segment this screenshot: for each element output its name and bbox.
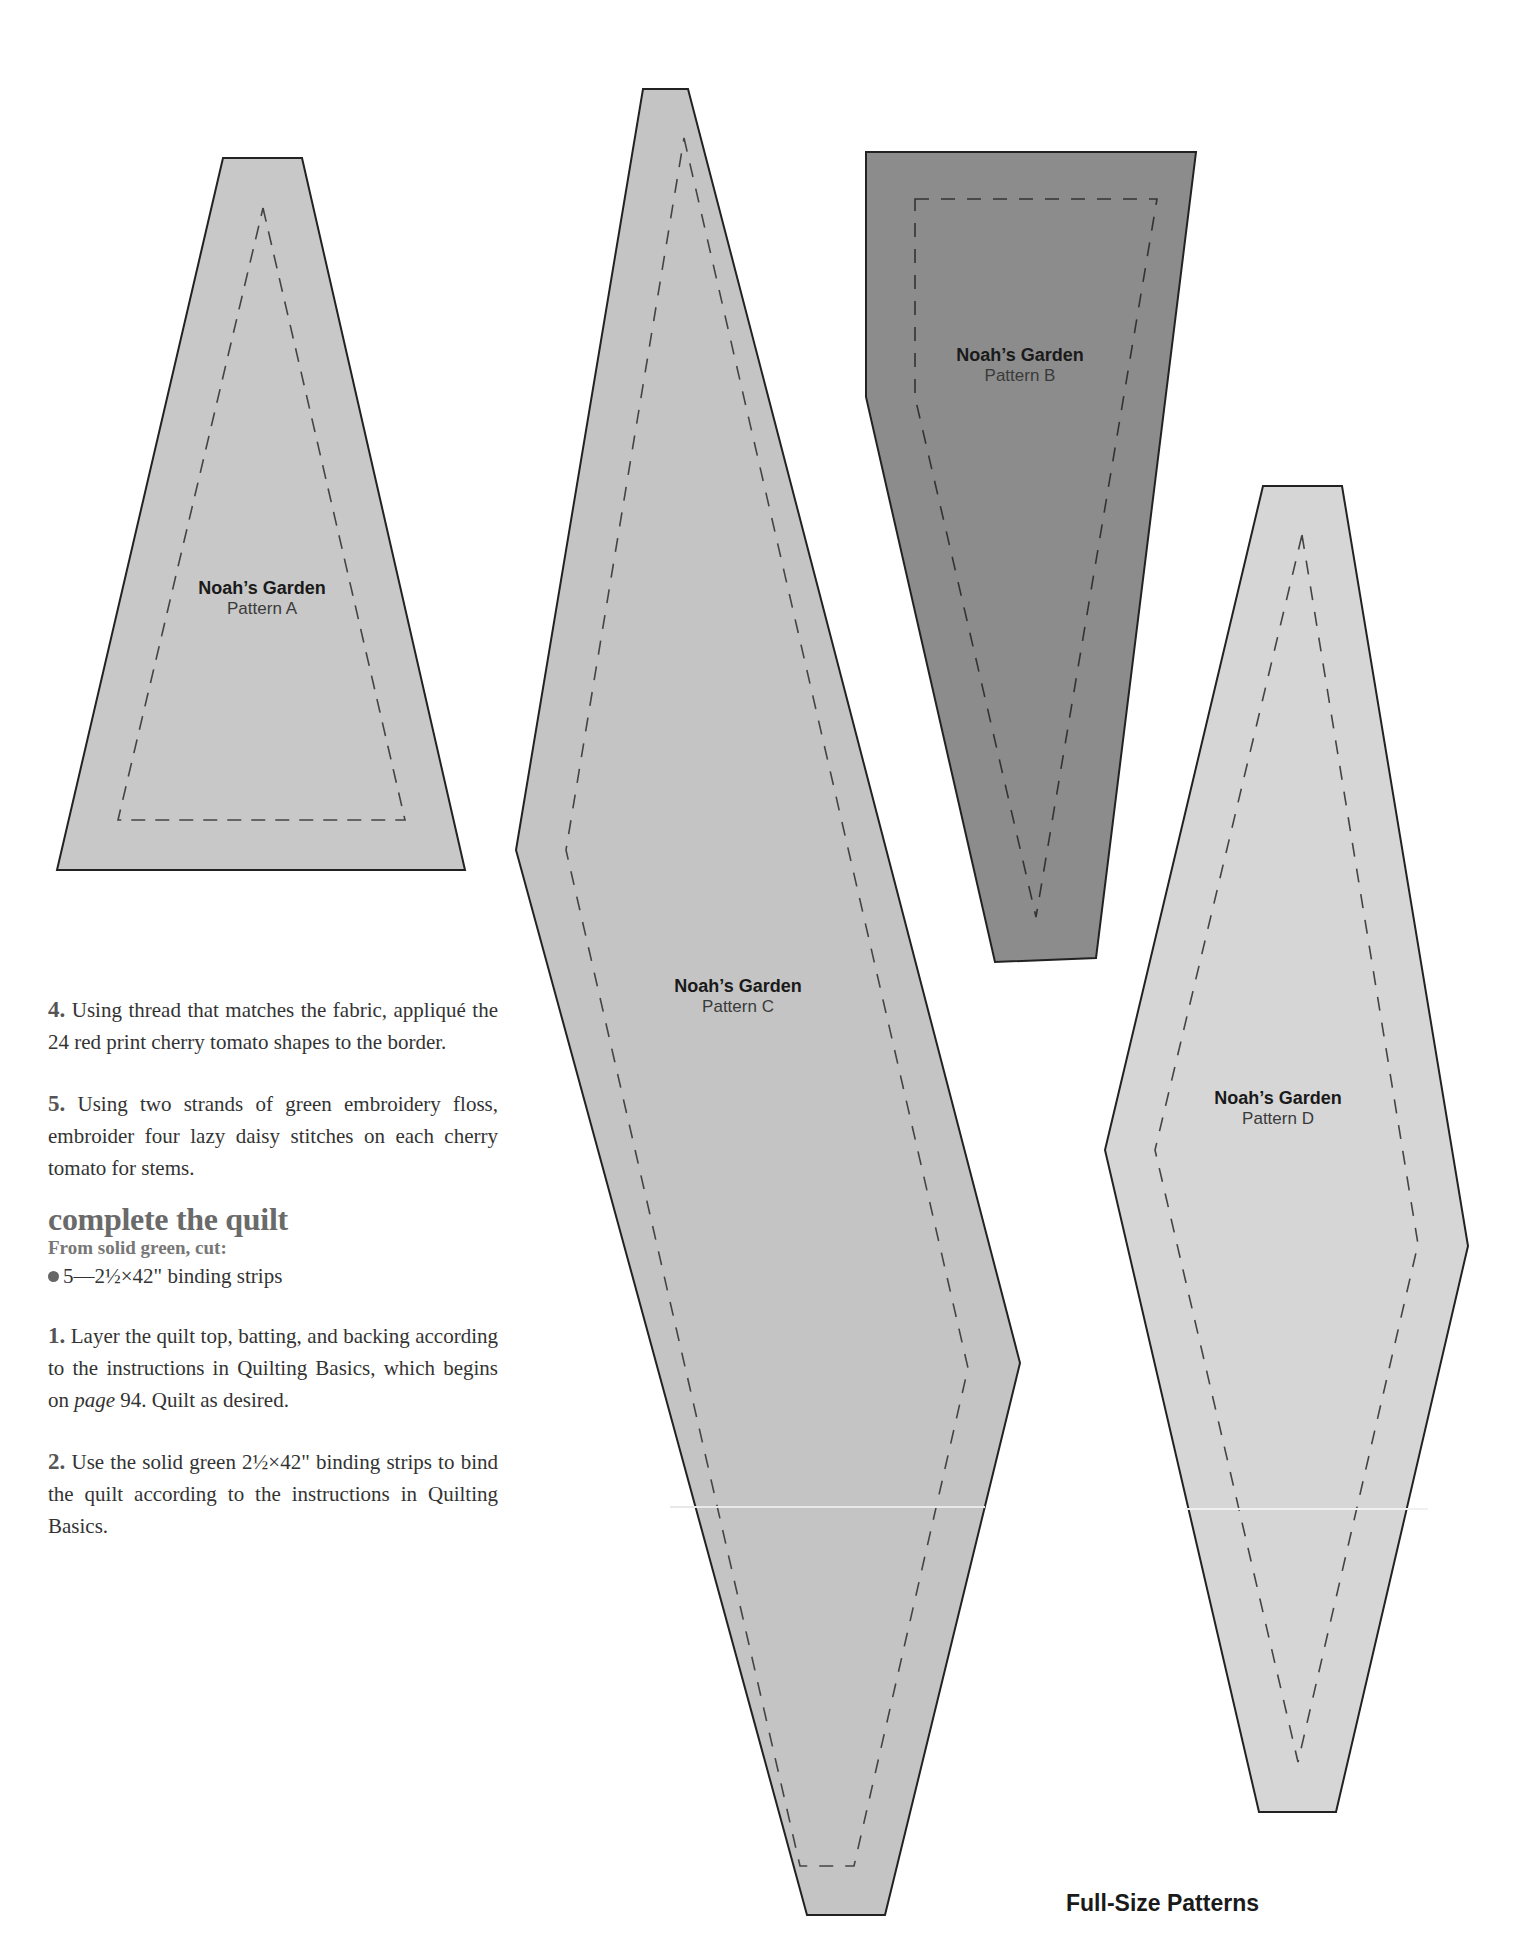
pattern-a-shape <box>57 158 465 870</box>
step-1: 1. Layer the quilt top, batting, and bac… <box>48 1320 498 1416</box>
pattern-c-subtitle: Pattern C <box>648 997 828 1017</box>
pattern-shapes <box>0 0 1540 1938</box>
section-heading: complete the quilt <box>48 1202 498 1236</box>
pattern-c-title: Noah’s Garden <box>648 976 828 997</box>
pattern-a-label: Noah’s Garden Pattern A <box>172 578 352 618</box>
step-text: Using two strands of green embroidery fl… <box>48 1092 498 1180</box>
step-4: 4. Using thread that matches the fabric,… <box>48 994 498 1058</box>
step-number: 5. <box>48 1091 65 1116</box>
pattern-a-title: Noah’s Garden <box>172 578 352 599</box>
pattern-c-label: Noah’s Garden Pattern C <box>648 976 828 1016</box>
pattern-d-title: Noah’s Garden <box>1188 1088 1368 1109</box>
step-text: Using thread that matches the fabric, ap… <box>48 998 498 1054</box>
pattern-b-shape <box>866 152 1196 962</box>
step-2: 2. Use the solid green 2½×42" binding st… <box>48 1446 498 1542</box>
step-text-end: 94. Quilt as desired. <box>115 1388 289 1412</box>
pattern-d-shape <box>1105 486 1468 1812</box>
cut-list-text: 5—2½×42" binding strips <box>63 1264 282 1288</box>
bullet-icon <box>48 1271 59 1282</box>
page-footer: Full-Size Patterns <box>1066 1890 1259 1917</box>
step-number: 4. <box>48 997 65 1022</box>
section-subheading: From solid green, cut: <box>48 1236 498 1260</box>
cut-list-item: 5—2½×42" binding strips <box>48 1260 498 1292</box>
step-text: Use the solid green 2½×42" binding strip… <box>48 1450 498 1538</box>
pattern-d-label: Noah’s Garden Pattern D <box>1188 1088 1368 1128</box>
step-number: 2. <box>48 1449 65 1474</box>
pattern-b-subtitle: Pattern B <box>930 366 1110 386</box>
step-5: 5. Using two strands of green embroidery… <box>48 1088 498 1184</box>
instructions-column: 4. Using thread that matches the fabric,… <box>48 994 498 1572</box>
page-reference: page <box>74 1388 115 1412</box>
pattern-b-title: Noah’s Garden <box>930 345 1110 366</box>
pattern-b-label: Noah’s Garden Pattern B <box>930 345 1110 385</box>
pattern-a-subtitle: Pattern A <box>172 599 352 619</box>
pattern-d-subtitle: Pattern D <box>1188 1109 1368 1129</box>
step-number: 1. <box>48 1323 65 1348</box>
